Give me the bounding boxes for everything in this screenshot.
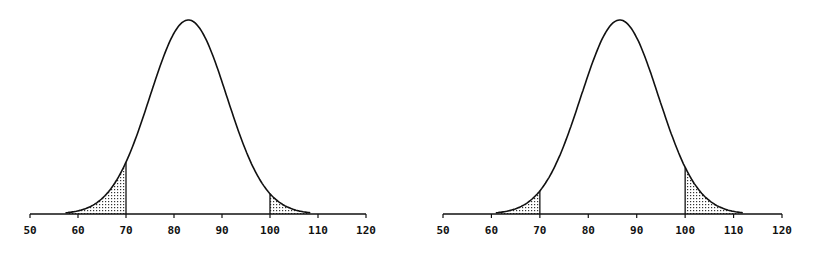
normal-curve [496,20,743,213]
shaded-tail-region [685,167,738,214]
x-tick-label: 110 [308,224,328,237]
x-tick-label: 100 [675,224,695,237]
x-tick-label: 120 [772,224,792,237]
normal-distribution-charts: 5060708090100110120 5060708090100110120 [0,0,818,254]
left-normal-curve-chart: 5060708090100110120 [23,20,376,237]
x-tick-label: 70 [533,224,546,237]
x-tick-label: 90 [215,224,228,237]
x-tick-label: 50 [436,224,449,237]
normal-curve [66,20,311,213]
x-tick-label: 60 [71,224,84,237]
x-tick-label: 70 [119,224,132,237]
x-tick-label: 100 [260,224,280,237]
x-tick-label: 60 [485,224,498,237]
shaded-tail-region [68,162,126,214]
x-tick-label: 110 [724,224,744,237]
x-tick-label: 90 [630,224,643,237]
x-tick-label: 80 [167,224,180,237]
right-normal-curve-chart: 5060708090100110120 [436,20,792,237]
x-tick-label: 80 [582,224,595,237]
x-tick-label: 120 [356,224,376,237]
x-tick-label: 50 [23,224,36,237]
